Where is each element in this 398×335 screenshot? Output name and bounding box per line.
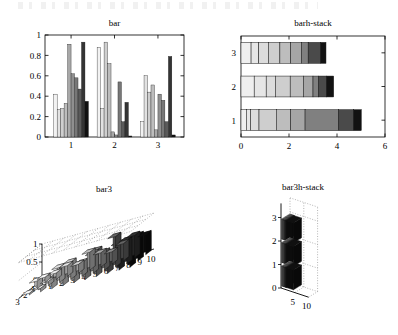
bar-rect — [151, 85, 154, 137]
bar-rect — [165, 122, 168, 137]
y-tick-label: 3 — [232, 48, 237, 58]
x-tick-label: 1 — [69, 140, 74, 150]
stacked-segment — [313, 76, 318, 97]
y-tick-label: 0.8 — [30, 51, 42, 61]
x-tick-label: 3 — [156, 140, 161, 150]
y-tick-label: 3 — [15, 297, 20, 307]
chart-title: bar — [109, 18, 121, 28]
stacked-segment — [251, 110, 259, 131]
bar-rect — [75, 78, 78, 137]
bar-rect — [172, 135, 175, 137]
bar-rect — [154, 130, 157, 137]
stacked-segment — [308, 42, 320, 63]
grid-line — [75, 229, 98, 248]
panel-bar: bar00.20.40.60.81123 — [0, 0, 199, 168]
y-tick-label: 0 — [37, 132, 42, 142]
chart-title: bar3h-stack — [282, 182, 324, 192]
stacked-segment — [339, 110, 354, 131]
bar-rect — [101, 108, 104, 137]
z-tick-label: 2 — [272, 236, 277, 246]
stacked-segment — [276, 110, 290, 131]
bar-rect — [161, 100, 164, 137]
bar-rect — [111, 132, 114, 137]
panel-barh-stack: barh-stack0246123 — [199, 0, 398, 168]
grid-line — [41, 238, 64, 257]
chart-grid: bar00.20.40.60.81123 barh-stack0246123 b… — [0, 0, 398, 335]
z-tick-label: 1 — [33, 239, 38, 249]
stacked-segment — [321, 42, 326, 63]
bar-rect — [148, 92, 151, 137]
bar-rect — [57, 109, 60, 137]
grid-line — [86, 225, 109, 244]
y-tick-label: 0.4 — [30, 91, 42, 101]
grid-line — [309, 292, 318, 298]
z-tick-label: 0.5 — [26, 257, 38, 267]
bar-rect — [168, 56, 171, 137]
x-tick-label: 10 — [302, 301, 312, 311]
bar-rect — [108, 64, 111, 137]
x-tick-label: 2 — [287, 141, 292, 151]
bar-rect — [104, 42, 107, 137]
bar-rect — [121, 122, 124, 137]
stacked-segment — [259, 110, 276, 131]
z-tick-label: 0 — [272, 283, 277, 293]
y-tick-label: 2 — [232, 82, 237, 92]
bar3h-stack-chart-svg: bar3h-stack0123510 — [199, 168, 398, 335]
stacked-segment — [241, 110, 246, 131]
stacked-segment — [290, 76, 303, 97]
bar-rect — [71, 74, 74, 137]
stacked-segment — [280, 42, 291, 63]
panel-bar3: bar300.5112345678910123 — [0, 168, 199, 335]
bar3-box-side — [134, 231, 139, 258]
y-tick-label: 1 — [37, 30, 42, 40]
bar-rect — [61, 108, 64, 137]
barh-stack-chart-svg: barh-stack0246123 — [199, 0, 398, 168]
bar-rect — [64, 103, 67, 137]
stacked-segment — [254, 76, 266, 97]
bar-rect — [118, 82, 121, 137]
grid-line — [52, 235, 75, 254]
y-tick-label: 1 — [232, 116, 237, 126]
y-tick-label: 0.6 — [30, 71, 42, 81]
grid-line — [63, 232, 86, 251]
stacked-segment — [301, 42, 308, 63]
stacked-segment — [291, 110, 305, 131]
chart-title: barh-stack — [294, 18, 332, 28]
stacked-segment — [354, 110, 362, 131]
stacked-segment — [305, 110, 339, 131]
bar-rect — [158, 94, 161, 137]
bar-rect — [128, 136, 131, 137]
x-tick-label: 6 — [383, 141, 388, 151]
bar-rect — [54, 94, 57, 137]
bar-chart-svg: bar00.20.40.60.81123 — [0, 0, 199, 168]
x-tick-label: 0 — [239, 141, 244, 151]
bar-rect — [81, 42, 84, 137]
panel-bar3h-stack: bar3h-stack0123510 — [199, 168, 398, 335]
bar-rect — [144, 76, 147, 137]
x-tick-label: 5 — [291, 297, 296, 307]
bar-rect — [85, 101, 88, 137]
stacked-segment — [259, 42, 269, 63]
bar3h-seg-front — [286, 268, 293, 290]
stacked-segment — [241, 76, 254, 97]
x-tick-label: 2 — [112, 140, 117, 150]
stacked-segment — [303, 76, 313, 97]
stacked-segment — [318, 76, 326, 97]
z-tick-label: 1 — [272, 260, 277, 270]
bar-rect — [141, 122, 144, 137]
bar-rect — [78, 89, 81, 137]
stacked-segment — [275, 76, 290, 97]
bar-rect — [68, 44, 71, 137]
stacked-segment — [268, 42, 280, 63]
z-tick-label: 3 — [272, 213, 277, 223]
grid-line — [131, 213, 154, 232]
x-tick-label: 4 — [335, 141, 340, 151]
bar-rect — [115, 135, 118, 137]
stacked-segment — [251, 42, 259, 63]
x-tick-label: 10 — [146, 254, 156, 264]
bar-rect — [125, 102, 128, 137]
y-tick-label: 0.2 — [30, 112, 41, 122]
stacked-segment — [326, 76, 333, 97]
stacked-segment — [246, 110, 250, 131]
bar3-chart-svg: bar300.5112345678910123 — [0, 168, 199, 335]
